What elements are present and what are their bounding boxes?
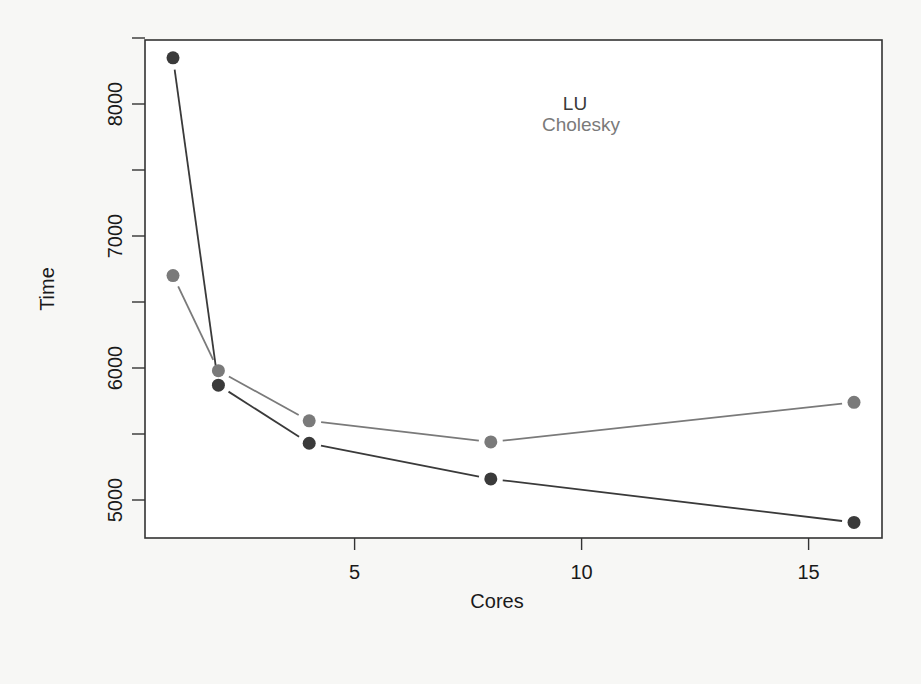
line-chart: 51015 5000600070008000 Cores Time LU Cho… — [0, 0, 921, 684]
y-tick-label: 5000 — [104, 478, 126, 523]
data-point — [303, 437, 316, 450]
data-point — [167, 269, 180, 282]
y-tick-label: 7000 — [104, 214, 126, 259]
data-point — [484, 472, 497, 485]
x-tick-label: 5 — [349, 561, 360, 583]
data-point — [848, 396, 861, 409]
x-tick-label: 10 — [570, 561, 592, 583]
data-point — [212, 379, 225, 392]
data-point — [848, 516, 861, 529]
legend-label-cholesky: Cholesky — [542, 114, 621, 135]
data-point — [303, 414, 316, 427]
x-axis-title: Cores — [470, 590, 523, 612]
x-tick-label: 15 — [797, 561, 819, 583]
y-tick-label: 8000 — [104, 82, 126, 127]
y-tick-label: 6000 — [104, 346, 126, 391]
y-axis-title: Time — [36, 267, 58, 311]
data-point — [212, 364, 225, 377]
plot-area — [145, 40, 882, 538]
legend-label-lu: LU — [563, 93, 587, 114]
data-point — [167, 51, 180, 64]
data-point — [484, 435, 497, 448]
